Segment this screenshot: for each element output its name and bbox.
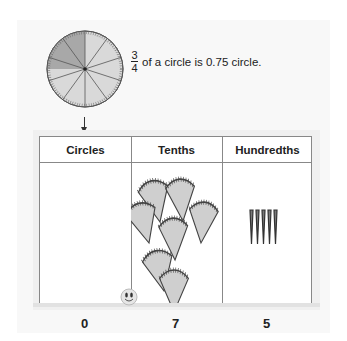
fraction: 3 4 — [131, 50, 138, 73]
value-tenths: 7 — [130, 316, 221, 331]
place-value-table: Circles Tenths Hundredths — [39, 136, 312, 305]
caption-text: of a circle is 0.75 circle. — [142, 56, 262, 68]
circle-tenths-icon — [45, 29, 125, 109]
header-tenths: Tenths — [131, 137, 222, 162]
value-hundredths: 5 — [221, 316, 312, 331]
header-circles: Circles — [40, 137, 131, 162]
table-base-line — [33, 303, 320, 307]
fraction-denominator: 4 — [131, 63, 137, 73]
header-hundredths: Hundredths — [222, 137, 313, 162]
tenths-pieces-icon — [131, 162, 222, 306]
fraction-numerator: 3 — [131, 50, 137, 60]
hundredths-pieces-icon — [222, 162, 313, 306]
value-circles: 0 — [39, 316, 130, 331]
fraction-caption: 3 4 of a circle is 0.75 circle. — [131, 50, 262, 73]
smiley-face-icon — [120, 288, 138, 306]
